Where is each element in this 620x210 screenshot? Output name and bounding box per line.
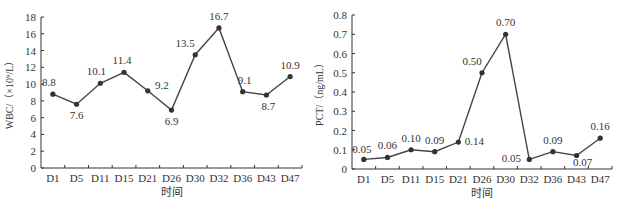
y-tick-label: 4 bbox=[31, 128, 37, 140]
x-axis-title: 时间 bbox=[471, 187, 493, 199]
y-tick-label: 0.4 bbox=[333, 86, 347, 98]
data-point bbox=[288, 74, 293, 79]
data-point bbox=[264, 92, 269, 97]
data-label: 11.4 bbox=[113, 54, 132, 66]
data-point bbox=[216, 25, 221, 30]
data-label: 8.8 bbox=[42, 76, 56, 88]
x-tick-label: D43 bbox=[257, 172, 276, 184]
data-label: 0.07 bbox=[573, 156, 593, 168]
x-tick-label: D26 bbox=[162, 172, 181, 184]
data-label: 10.1 bbox=[87, 65, 106, 77]
data-point bbox=[240, 89, 245, 94]
y-tick-label: 8 bbox=[31, 95, 37, 107]
data-point bbox=[432, 149, 437, 154]
x-tick-label: D5 bbox=[381, 173, 395, 185]
y-tick-label: 0.6 bbox=[333, 48, 347, 60]
y-tick-label: 0.3 bbox=[333, 105, 347, 117]
pct-chart-svg: 00.10.20.30.40.50.60.70.8D1D5D11D15D21D2… bbox=[310, 0, 620, 210]
data-label: 7.6 bbox=[70, 109, 84, 121]
data-point bbox=[98, 81, 103, 86]
y-tick-label: 0.5 bbox=[333, 67, 347, 79]
y-tick-label: 14 bbox=[25, 45, 37, 57]
wbc-chart: 024681012141618D1D5D11D15D21D26D30D32D36… bbox=[0, 0, 310, 210]
y-tick-label: 0.1 bbox=[333, 144, 347, 156]
data-point bbox=[50, 92, 55, 97]
y-tick-label: 0.2 bbox=[333, 125, 347, 137]
data-label: 0.06 bbox=[378, 139, 398, 151]
y-tick-label: 0 bbox=[31, 162, 37, 174]
data-label: 8.7 bbox=[262, 100, 276, 112]
y-axis-title: WBC/（×10⁹/L） bbox=[4, 56, 15, 130]
x-tick-label: D30 bbox=[186, 172, 205, 184]
y-tick-label: 0.7 bbox=[333, 28, 347, 40]
x-tick-label: D1 bbox=[46, 172, 59, 184]
data-point bbox=[145, 88, 150, 93]
y-tick-label: 12 bbox=[25, 61, 36, 73]
x-tick-label: D47 bbox=[281, 172, 300, 184]
x-tick-label: D47 bbox=[591, 173, 610, 185]
data-point bbox=[456, 139, 461, 144]
data-label: 0.50 bbox=[462, 55, 482, 67]
y-tick-label: 0.8 bbox=[333, 9, 347, 21]
data-point bbox=[550, 149, 555, 154]
data-point bbox=[408, 147, 413, 152]
data-point bbox=[121, 70, 126, 75]
data-label: 9.2 bbox=[155, 79, 169, 91]
data-point bbox=[361, 157, 366, 162]
x-axis-title: 时间 bbox=[161, 186, 183, 198]
data-label: 13.5 bbox=[176, 37, 196, 49]
x-tick-label: D5 bbox=[70, 172, 84, 184]
data-point bbox=[479, 70, 484, 75]
x-tick-label: D32 bbox=[209, 172, 228, 184]
wbc-chart-svg: 024681012141618D1D5D11D15D21D26D30D32D36… bbox=[0, 0, 310, 210]
x-tick-label: D11 bbox=[402, 173, 421, 185]
x-tick-label: D11 bbox=[91, 172, 110, 184]
data-point bbox=[385, 155, 390, 160]
y-tick-label: 6 bbox=[31, 112, 37, 124]
data-label: 10.9 bbox=[281, 59, 301, 71]
data-point bbox=[598, 136, 603, 141]
data-label: 0.70 bbox=[496, 16, 516, 28]
data-label: 0.05 bbox=[502, 152, 522, 164]
x-tick-label: D21 bbox=[138, 172, 157, 184]
data-label: 16.7 bbox=[209, 10, 229, 22]
y-tick-label: 16 bbox=[25, 28, 37, 40]
pct-chart: 00.10.20.30.40.50.60.70.8D1D5D11D15D21D2… bbox=[310, 0, 620, 210]
data-label: 0.09 bbox=[425, 134, 445, 146]
x-tick-label: D30 bbox=[496, 173, 515, 185]
y-axis-title: PCT/（ng/mL） bbox=[314, 58, 325, 126]
x-tick-label: D15 bbox=[115, 172, 134, 184]
x-tick-label: D32 bbox=[520, 173, 539, 185]
y-tick-label: 18 bbox=[25, 11, 37, 23]
y-tick-label: 2 bbox=[31, 145, 37, 157]
y-tick-label: 0 bbox=[342, 163, 348, 175]
data-point bbox=[169, 108, 174, 113]
data-point bbox=[527, 157, 532, 162]
x-tick-label: D43 bbox=[567, 173, 586, 185]
y-tick-label: 10 bbox=[25, 78, 37, 90]
data-label: 9.1 bbox=[238, 74, 252, 86]
data-point bbox=[503, 32, 508, 37]
data-label: 0.05 bbox=[352, 143, 372, 155]
data-point bbox=[74, 102, 79, 107]
data-point bbox=[193, 52, 198, 57]
x-tick-label: D36 bbox=[543, 173, 562, 185]
x-tick-label: D21 bbox=[449, 173, 468, 185]
x-tick-label: D36 bbox=[233, 172, 252, 184]
x-tick-label: D15 bbox=[425, 173, 444, 185]
x-tick-label: D26 bbox=[473, 173, 492, 185]
data-label: 0.14 bbox=[465, 135, 485, 147]
data-label: 0.16 bbox=[591, 120, 611, 132]
data-label: 0.09 bbox=[543, 134, 563, 146]
x-tick-label: D1 bbox=[357, 173, 370, 185]
data-label: 0.10 bbox=[401, 132, 421, 144]
data-label: 6.9 bbox=[165, 115, 179, 127]
